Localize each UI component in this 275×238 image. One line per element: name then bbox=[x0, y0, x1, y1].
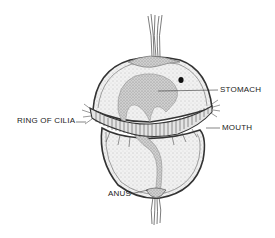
label-ring-of-cilia: RING OF CILIA bbox=[17, 117, 75, 125]
label-anus: ANUS bbox=[108, 190, 131, 198]
eyespot bbox=[178, 77, 183, 83]
lower-body bbox=[101, 128, 204, 198]
posterior-tuft bbox=[151, 197, 161, 225]
label-mouth: MOUTH bbox=[222, 124, 252, 132]
label-stomach: STOMACH bbox=[220, 86, 261, 94]
apical-tuft bbox=[148, 14, 162, 57]
